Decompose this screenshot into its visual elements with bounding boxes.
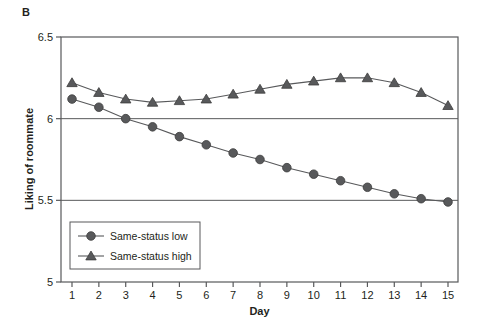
x-tick-label: 15 bbox=[442, 289, 454, 301]
x-tick-label: 6 bbox=[203, 289, 209, 301]
data-point-marker bbox=[67, 78, 77, 87]
x-tick-label: 7 bbox=[230, 289, 236, 301]
data-point-marker bbox=[68, 95, 77, 104]
x-axis-label: Day bbox=[61, 305, 458, 317]
x-tick-label: 13 bbox=[388, 289, 400, 301]
x-tick-label: 5 bbox=[176, 289, 182, 301]
x-tick-label: 1 bbox=[69, 289, 75, 301]
y-tick-label: 5 bbox=[47, 276, 53, 288]
legend-label-1: Same-status low bbox=[110, 230, 188, 242]
x-tick-label: 14 bbox=[415, 289, 427, 301]
data-point-marker bbox=[444, 198, 453, 207]
data-point-marker bbox=[443, 101, 453, 110]
series-line-1 bbox=[72, 99, 448, 202]
line-chart: 55.566.5123456789101112131415Same-status… bbox=[0, 0, 481, 333]
x-tick-label: 4 bbox=[150, 289, 156, 301]
x-tick-label: 12 bbox=[361, 289, 373, 301]
y-tick-label: 6.5 bbox=[38, 31, 53, 43]
data-point-marker bbox=[229, 149, 238, 158]
y-tick-label: 5.5 bbox=[38, 194, 53, 206]
x-tick-label: 3 bbox=[123, 289, 129, 301]
data-point-marker bbox=[202, 141, 211, 150]
data-point-marker bbox=[94, 88, 104, 97]
y-tick-label: 6 bbox=[47, 113, 53, 125]
data-point-marker bbox=[336, 176, 345, 185]
data-point-marker bbox=[121, 114, 130, 123]
legend-label-2: Same-status high bbox=[110, 250, 192, 262]
data-point-marker bbox=[309, 170, 318, 179]
figure-panel-b: B Liking of roommate Day 55.566.51234567… bbox=[0, 0, 481, 333]
data-point-marker bbox=[417, 194, 426, 203]
x-tick-label: 8 bbox=[257, 289, 263, 301]
legend-marker-circle-icon bbox=[87, 232, 96, 241]
data-point-marker bbox=[148, 123, 157, 132]
x-tick-label: 2 bbox=[96, 289, 102, 301]
data-point-marker bbox=[256, 155, 265, 164]
panel-label: B bbox=[22, 6, 30, 18]
data-point-marker bbox=[175, 132, 184, 141]
data-point-marker bbox=[416, 88, 426, 97]
data-point-marker bbox=[390, 190, 399, 199]
x-tick-label: 10 bbox=[308, 289, 320, 301]
data-point-marker bbox=[283, 163, 292, 172]
data-point-marker bbox=[363, 183, 372, 192]
x-tick-label: 9 bbox=[284, 289, 290, 301]
y-axis-label: Liking of roommate bbox=[23, 89, 35, 229]
x-tick-label: 11 bbox=[335, 289, 346, 301]
data-point-marker bbox=[95, 103, 104, 112]
